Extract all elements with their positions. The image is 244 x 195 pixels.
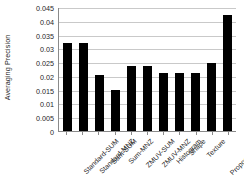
bar[interactable] [223, 15, 232, 131]
y-axis-tick-label: 0.045 [36, 4, 54, 13]
y-axis-tick-label: 0.03 [40, 45, 54, 54]
x-axis-tick [212, 132, 213, 135]
bars-container [59, 8, 236, 131]
bar-slot [204, 8, 220, 131]
x-axis-tick [196, 132, 197, 135]
bar[interactable] [191, 73, 200, 131]
bar[interactable] [95, 75, 104, 131]
bar-slot [91, 8, 107, 131]
y-axis-tick-label: 0.015 [36, 86, 54, 95]
y-axis-tick-label: 0.005 [36, 114, 54, 123]
x-axis-tick-labels: Standard-SUMStandard-MNZSum-SUMSum-MNZZM… [0, 136, 244, 195]
y-axis-title-label: Averaging Precision [4, 34, 13, 100]
y-axis-tick-labels: 00.0050.010.0150.020.0250.030.0350.040.0… [16, 8, 56, 132]
y-axis-tick-label: 0.04 [40, 17, 54, 26]
x-axis-tick [131, 132, 132, 135]
bar-slot [75, 8, 91, 131]
y-axis-tick-label: 0.01 [40, 100, 54, 109]
bar-slot [123, 8, 139, 131]
y-axis-tick-label: 0.025 [36, 59, 54, 68]
x-axis-tick [98, 132, 99, 135]
bar-slot [172, 8, 188, 131]
bar[interactable] [63, 43, 72, 131]
bar[interactable] [207, 63, 216, 131]
x-axis-tick [115, 132, 116, 135]
x-axis-tick [228, 132, 229, 135]
bar-slot [220, 8, 236, 131]
bar-chart: Averaging Precision 00.0050.010.0150.020… [0, 0, 244, 195]
plot-area [58, 8, 236, 132]
x-axis-tick [66, 132, 67, 135]
x-axis-tick [82, 132, 83, 135]
x-axis-tick-label: Texture [205, 137, 226, 158]
bar[interactable] [175, 73, 184, 131]
y-axis-tick-label: 0.02 [40, 72, 54, 81]
bar-slot [139, 8, 155, 131]
bar[interactable] [79, 43, 88, 131]
y-axis-title: Averaging Precision [0, 0, 16, 134]
bar[interactable] [159, 73, 168, 131]
x-axis-tick-label: Proposed-SUM [228, 137, 244, 176]
bar-slot [107, 8, 123, 131]
x-axis-tick-label: Shape [188, 137, 207, 156]
bar[interactable] [127, 66, 136, 131]
bar[interactable] [143, 66, 152, 131]
bar-slot [59, 8, 75, 131]
x-axis-tick [163, 132, 164, 135]
bar[interactable] [111, 90, 120, 131]
x-axis-tick [179, 132, 180, 135]
y-axis-tick-label: 0.035 [36, 31, 54, 40]
bar-slot [188, 8, 204, 131]
bar-slot [156, 8, 172, 131]
x-axis-tick [147, 132, 148, 135]
